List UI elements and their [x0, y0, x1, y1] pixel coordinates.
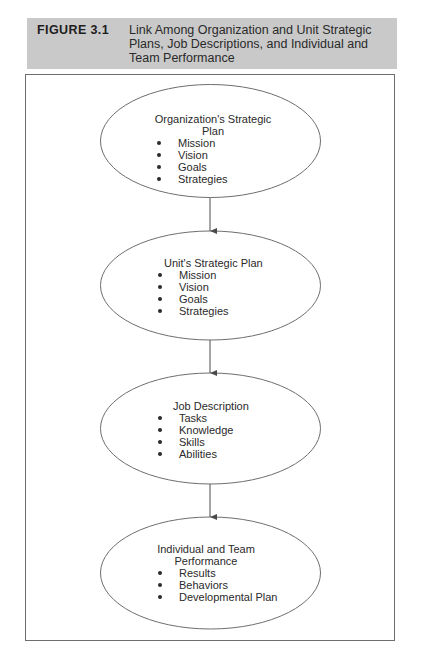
node-bullet-list: Results Behaviors Developmental Plan: [148, 567, 298, 603]
node-organization-plan: Organization's Strategic Plan Mission Vi…: [143, 113, 283, 185]
list-item: Strategies: [147, 173, 283, 185]
list-item: Results: [148, 567, 298, 579]
list-item: Mission: [147, 137, 283, 149]
node-performance: Individual and Team Performance Results …: [148, 543, 298, 603]
node-job-description: Job Description Tasks Knowledge Skills A…: [148, 400, 268, 460]
list-item: Goals: [148, 293, 268, 305]
list-item: Vision: [147, 149, 283, 161]
node-bullet-list: Tasks Knowledge Skills Abilities: [148, 412, 268, 460]
list-item: Goals: [147, 161, 283, 173]
list-item: Skills: [148, 436, 268, 448]
node-bullet-list: Mission Vision Goals Strategies: [147, 137, 283, 185]
list-item: Developmental Plan: [148, 591, 298, 603]
list-item: Vision: [148, 281, 268, 293]
list-item: Strategies: [148, 305, 268, 317]
node-unit-plan: Unit's Strategic Plan Mission Vision Goa…: [148, 257, 268, 317]
node-title: Unit's Strategic Plan: [148, 257, 268, 269]
list-item: Behaviors: [148, 579, 298, 591]
list-item: Abilities: [148, 448, 268, 460]
node-bullet-list: Mission Vision Goals Strategies: [148, 269, 268, 317]
node-title: Individual and Team Performance: [148, 543, 261, 567]
list-item: Knowledge: [148, 424, 268, 436]
node-title: Job Description: [148, 400, 268, 412]
node-title: Organization's Strategic Plan: [143, 113, 283, 137]
list-item: Mission: [148, 269, 268, 281]
list-item: Tasks: [148, 412, 268, 424]
